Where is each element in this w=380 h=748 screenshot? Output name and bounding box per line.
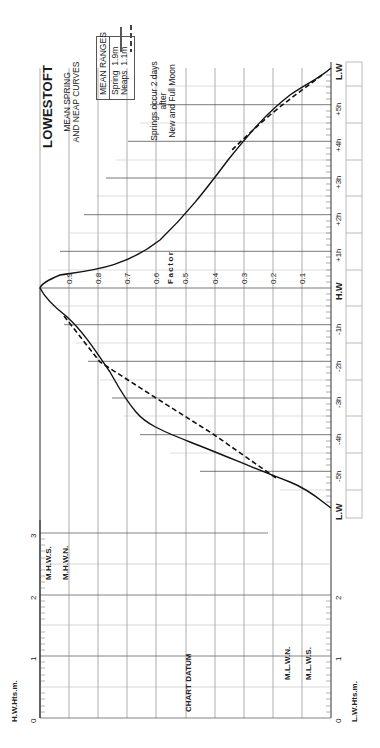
- time-tick-plus3: +3h: [334, 175, 343, 189]
- time-axis-minor-ticks: [326, 75, 331, 502]
- lw-height-tick-1: 1: [334, 657, 343, 661]
- factor-axis-label: Factor: [166, 251, 175, 284]
- time-tick-minus3: -3h: [334, 396, 343, 408]
- lw-heights-minor-ticks: [326, 601, 331, 712]
- legend-header: MEAN RANGES: [97, 37, 110, 99]
- time-tick-plus4: +4h: [334, 138, 343, 152]
- factor-tick-0.2: 0.2: [269, 273, 278, 284]
- mlwn-label: M.L.W.N.: [283, 647, 292, 680]
- time-tick-minus1: -1h: [334, 323, 343, 335]
- time-grid: [40, 105, 331, 472]
- hw-height-tick-1: 1: [29, 657, 38, 661]
- springs-note-line3: New and Full Moon: [168, 56, 177, 146]
- factor-tick-0.3: 0.3: [240, 273, 249, 284]
- time-tick-minus4: -4h: [334, 433, 343, 445]
- mean-ranges-legend: MEAN RANGES Spring 1.9m Neaps 1.1m: [96, 36, 135, 100]
- factor-tick-0.9: 0.9: [65, 273, 74, 284]
- hw-height-tick-2: 2: [29, 596, 38, 600]
- hw-height-tick-0: 0: [29, 719, 38, 723]
- mlws-label: M.L.W.S.: [304, 647, 313, 680]
- tidal-curve-chart: [0, 0, 380, 748]
- hw-height-tick-3: 3: [29, 534, 38, 538]
- time-tick-plus1: +1h: [334, 248, 343, 262]
- time-tick-lw-top: L.W: [334, 64, 344, 81]
- factor-tick-0.4: 0.4: [211, 273, 220, 284]
- mhwn-label: M.H.W.N.: [61, 546, 70, 580]
- chart-datum-label: CHART DATUM: [184, 653, 193, 712]
- factor-grid: [40, 68, 302, 718]
- chart-title: LOWESTOFT: [40, 65, 55, 148]
- chart-subtitle-line2: AND NEAP CURVES: [72, 56, 81, 148]
- time-tick-minus5: -5h: [334, 470, 343, 482]
- legend-neaps-row: Neaps 1.1m: [120, 41, 129, 95]
- factor-tick-0.7: 0.7: [123, 273, 132, 284]
- time-tick-plus5: +5h: [334, 102, 343, 116]
- lw-heights-axis-label: L.W.Hts.m.: [350, 681, 359, 722]
- legend-neaps-label: Neaps: [119, 70, 129, 95]
- mhws-label: M.H.W.S.: [44, 546, 53, 580]
- time-tick-hw: H.W: [334, 283, 344, 301]
- factor-tick-0.1: 0.1: [298, 273, 307, 284]
- lw-height-tick-2: 2: [334, 596, 343, 600]
- hw-heights-axis-label: H.W.Hts.m.: [10, 680, 19, 722]
- legend-neaps-value: 1.1m: [119, 47, 129, 66]
- time-tick-minus2: -2h: [334, 360, 343, 372]
- lw-height-tick-0: 0: [334, 719, 343, 723]
- factor-tick-0.5: 0.5: [181, 273, 190, 284]
- factor-tick-0.6: 0.6: [152, 273, 161, 284]
- time-entry-boxes: [346, 62, 362, 518]
- time-tick-plus2: +2h: [334, 212, 343, 226]
- factor-tick-0.8: 0.8: [94, 273, 103, 284]
- time-tick-lw-bottom: L.W: [334, 504, 344, 521]
